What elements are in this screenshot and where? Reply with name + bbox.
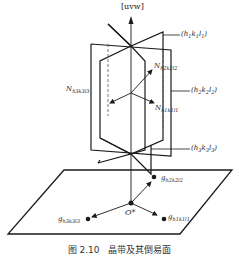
g3-label: gh3k3l3 (58, 216, 80, 224)
plane-1-label: (h1k1l1) (181, 31, 207, 39)
normal-N3-label: Nh3k3l3 (66, 86, 90, 94)
normal-N3-arrow (110, 93, 131, 103)
g1-label: gh1k1l1 (168, 214, 190, 222)
normal-N1-arrow (131, 93, 154, 103)
plane-1-outline (100, 24, 163, 154)
g1-point (162, 217, 167, 222)
figure-caption: 图 2.10 晶带及其倒易面 (0, 243, 239, 256)
g2-point (152, 175, 157, 180)
plane-3-label: (h3k3l3) (191, 145, 217, 153)
origin-point (129, 201, 134, 206)
normal-N1-label: Nh1k1l1 (155, 105, 179, 113)
g2-arrow (131, 182, 151, 203)
g3-point (86, 217, 91, 222)
normal-N2-label: Nh2k2l2 (154, 63, 178, 71)
zone-axis-arrowhead-icon (129, 16, 134, 24)
reciprocal-plane (8, 170, 232, 234)
plane-2-label: (h2k2l2) (191, 87, 217, 95)
zone-axis-label: [uvw] (121, 3, 144, 11)
origin-label: O* (125, 209, 136, 217)
normal-N2-arrow (131, 70, 152, 93)
g2-label: gh2k2l2 (161, 175, 183, 183)
